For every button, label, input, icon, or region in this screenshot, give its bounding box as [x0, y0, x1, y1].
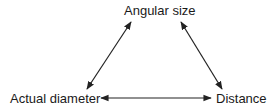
diagram: Angular size Actual diameter Distance — [0, 0, 277, 110]
edge-angular-distance — [181, 22, 222, 89]
edge-diameter-angular — [87, 22, 131, 89]
node-actual-diameter: Actual diameter — [10, 92, 100, 105]
node-distance: Distance — [216, 92, 267, 105]
node-angular-size: Angular size — [124, 4, 196, 17]
